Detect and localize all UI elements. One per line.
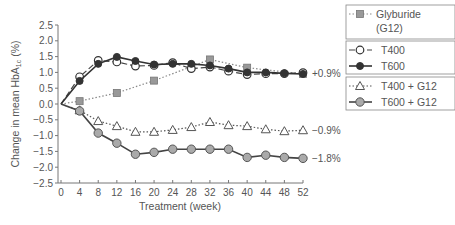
end-value-label: +0.9% (312, 68, 341, 79)
gray-circle-marker-icon (262, 151, 270, 159)
gray-circle-marker-icon (187, 145, 195, 153)
square-marker-icon (357, 11, 364, 18)
gray-circle-marker-icon (113, 139, 121, 147)
y-tick-label: 1.0 (39, 67, 53, 78)
gray-circle-marker-icon (168, 145, 176, 153)
triangle-marker-icon (280, 127, 289, 135)
triangle-marker-icon (299, 126, 308, 134)
filled-circle-marker-icon (206, 62, 213, 69)
x-tick-label: 12 (111, 187, 123, 198)
y-tick-label: 0.0 (39, 99, 53, 110)
end-value-label: −1.8% (312, 153, 341, 164)
gray-circle-marker-icon (299, 154, 307, 162)
end-value-label: −0.9% (312, 125, 341, 136)
series-layer (61, 53, 308, 162)
gray-circle-marker-icon (75, 107, 83, 115)
gray-circle-marker-icon (280, 153, 288, 161)
triangle-marker-icon (131, 127, 140, 135)
x-tick-label: 28 (186, 187, 198, 198)
gray-circle-marker-icon (224, 145, 232, 153)
filled-circle-marker-icon (188, 60, 195, 67)
x-tick-label: 20 (149, 187, 161, 198)
triangle-marker-icon (261, 125, 270, 133)
open-circle-marker-icon (356, 46, 364, 54)
x-tick-label: 16 (130, 187, 142, 198)
triangle-marker-icon (205, 118, 214, 126)
filled-circle-marker-icon (76, 77, 83, 84)
y-tick-label: 2.0 (39, 35, 53, 46)
y-tick-label: 0.5 (39, 83, 53, 94)
legend: Glyburide(G12)T400T600T400 + G12T600 + G… (346, 5, 455, 110)
legend-label: T600 + G12 (381, 96, 437, 108)
triangle-marker-icon (94, 117, 103, 125)
filled-circle-marker-icon (113, 53, 120, 60)
square-marker-icon (113, 89, 120, 96)
legend-label: (G12) (376, 22, 403, 34)
y-tick-label: 2.5 (39, 20, 53, 31)
x-tick-label: 24 (167, 187, 179, 198)
filled-circle-marker-icon (300, 70, 307, 77)
x-tick-label: 8 (95, 187, 101, 198)
filled-circle-marker-icon (151, 61, 158, 68)
legend-label: T400 + G12 (381, 80, 437, 92)
filled-circle-marker-icon (95, 60, 102, 67)
y-tick-label: −2.5 (33, 178, 53, 189)
gray-circle-marker-icon (243, 153, 251, 161)
legend-group: T400T600 (346, 41, 455, 74)
x-tick-label: 36 (223, 187, 235, 198)
filled-circle-marker-icon (169, 60, 176, 67)
legend-label: Glyburide (376, 8, 421, 20)
filled-circle-marker-icon (357, 63, 364, 70)
y-axis-title: Change in mean HbA1c (%) (9, 40, 22, 167)
x-tick-label: 4 (77, 187, 83, 198)
x-tick-label: 40 (242, 187, 254, 198)
chart-canvas: 2.52.01.51.00.50.0−0.5−1.0−1.5−2.0−2.504… (0, 0, 455, 225)
triangle-marker-icon (224, 121, 233, 129)
legend-group: Glyburide(G12) (346, 5, 455, 39)
gray-circle-marker-icon (356, 98, 364, 106)
square-marker-icon (151, 77, 158, 84)
filled-circle-marker-icon (281, 70, 288, 77)
hba1c-line-chart: 2.52.01.51.00.50.0−0.5−1.0−1.5−2.0−2.504… (0, 0, 455, 225)
y-tick-label: −0.5 (33, 114, 53, 125)
legend-group: T400 + G12T600 + G12 (346, 77, 455, 110)
y-tick-label: 1.5 (39, 51, 53, 62)
legend-label: T400 (381, 44, 405, 56)
square-marker-icon (76, 98, 83, 105)
y-tick-label: −1.0 (33, 130, 53, 141)
filled-circle-marker-icon (244, 69, 251, 76)
end-value-annotations: +0.9%−0.9%−1.8% (312, 68, 341, 164)
filled-circle-marker-icon (262, 69, 269, 76)
gray-circle-marker-icon (94, 129, 102, 137)
gray-circle-marker-icon (206, 145, 214, 153)
x-tick-label: 48 (279, 187, 291, 198)
x-axis-title: Treatment (week) (139, 200, 221, 212)
x-tick-label: 0 (58, 187, 64, 198)
series-t600 (61, 53, 307, 104)
legend-label: T600 (381, 60, 405, 72)
gray-circle-marker-icon (131, 150, 139, 158)
x-tick-label: 44 (260, 187, 272, 198)
filled-circle-marker-icon (132, 58, 139, 65)
x-tick-label: 32 (204, 187, 216, 198)
y-tick-label: −2.0 (33, 162, 53, 173)
gray-circle-marker-icon (150, 148, 158, 156)
filled-circle-marker-icon (225, 65, 232, 72)
y-tick-label: −1.5 (33, 146, 53, 157)
triangle-marker-icon (187, 123, 196, 131)
x-tick-label: 52 (297, 187, 309, 198)
